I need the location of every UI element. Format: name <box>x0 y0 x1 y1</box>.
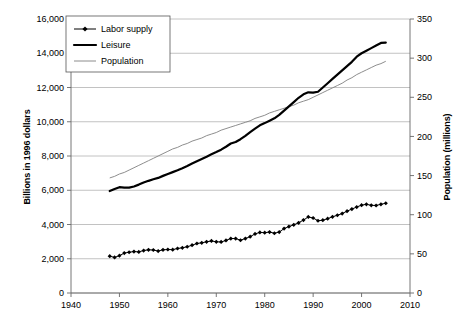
series-labor-supply-marker <box>311 216 315 220</box>
x-axis-tick-label: 1980 <box>255 300 275 310</box>
series-labor-supply-marker <box>175 246 179 250</box>
series-labor-supply-marker <box>161 248 165 252</box>
series-labor-supply-marker <box>209 239 213 243</box>
x-axis-tick-label: 2010 <box>400 300 420 310</box>
series-population-line <box>110 61 386 178</box>
series-labor-supply-marker <box>340 211 344 215</box>
series-labor-supply-marker <box>219 240 223 244</box>
series-labor-supply-marker <box>137 250 141 254</box>
y-axis-right-tick-label: 100 <box>417 210 432 220</box>
series-labor-supply-marker <box>200 241 204 245</box>
series-labor-supply-marker <box>287 224 291 228</box>
chart-figure: Billions in 1996 dollars Population (mil… <box>0 0 460 329</box>
series-labor-supply-marker <box>117 254 121 258</box>
series-labor-supply-marker <box>272 231 276 235</box>
series-labor-supply-marker <box>364 202 368 206</box>
series-labor-supply-marker <box>316 219 320 223</box>
series-labor-supply-marker <box>190 243 194 247</box>
series-labor-supply-marker <box>379 202 383 206</box>
series-labor-supply-marker <box>350 207 354 211</box>
series-labor-supply-marker <box>369 203 373 207</box>
series-labor-supply-marker <box>248 235 252 239</box>
series-population <box>110 61 386 178</box>
y-axis-left-tick-label: 12,000 <box>36 83 64 93</box>
series-labor-supply-marker <box>214 240 218 244</box>
series-labor-supply-marker <box>345 209 349 213</box>
chart-legend: Labor supplyLeisurePopulation <box>66 16 170 72</box>
series-labor-supply-marker <box>330 215 334 219</box>
y-axis-left-tick-label: 2,000 <box>41 254 64 264</box>
y-axis-right-tick-label: 200 <box>417 132 432 142</box>
series-labor-supply-marker <box>234 236 238 240</box>
y-axis-left-tick-label: 0 <box>59 288 64 298</box>
y-axis-left-tick-label: 8,000 <box>41 151 64 161</box>
series-labor-supply-marker <box>384 201 388 205</box>
series-labor-supply-marker <box>224 238 228 242</box>
series-labor-supply-marker <box>180 246 184 250</box>
y-axis-left-tick-label: 4,000 <box>41 220 64 230</box>
series-labor-supply-marker <box>151 248 155 252</box>
x-axis-ticks: 19401950196019701980199020002010 <box>61 293 420 310</box>
series-labor-supply-line <box>110 203 386 257</box>
x-axis-tick-label: 1990 <box>303 300 323 310</box>
series-labor-supply-marker <box>142 248 146 252</box>
y-axis-right-tick-label: 300 <box>417 53 432 63</box>
series-labor-supply-marker <box>374 203 378 207</box>
y-axis-right-tick-label: 0 <box>417 288 422 298</box>
y-axis-left-tick-label: 10,000 <box>36 117 64 127</box>
legend-label: Population <box>101 56 144 66</box>
series-labor-supply-marker <box>171 248 175 252</box>
y-axis-left-tick-label: 6,000 <box>41 185 64 195</box>
series-labor-supply-marker <box>108 254 112 258</box>
legend-label: Leisure <box>101 40 131 50</box>
series-labor-supply-marker <box>229 236 233 240</box>
legend-label: Labor supply <box>101 24 153 34</box>
series-labor-supply-marker <box>146 248 150 252</box>
series-labor-supply-marker <box>205 240 209 244</box>
series-labor-supply-marker <box>326 217 330 221</box>
series-labor-supply <box>108 201 388 259</box>
x-axis-tick-label: 2000 <box>352 300 372 310</box>
series-labor-supply-marker <box>321 218 325 222</box>
x-axis-tick-label: 1970 <box>206 300 226 310</box>
series-labor-supply-marker <box>156 249 160 253</box>
series-labor-supply-marker <box>267 230 271 234</box>
series-labor-supply-marker <box>238 238 242 242</box>
series-labor-supply-marker <box>258 230 262 234</box>
series-labor-supply-marker <box>127 250 131 254</box>
chart-plot-area: 02,0004,0006,0008,00010,00012,00014,0001… <box>0 0 460 329</box>
series-labor-supply-marker <box>122 251 126 255</box>
y-axis-left-tick-label: 14,000 <box>36 48 64 58</box>
series-labor-supply-marker <box>253 232 257 236</box>
series-labor-supply-marker <box>166 247 170 251</box>
series-labor-supply-marker <box>195 241 199 245</box>
series-labor-supply-marker <box>185 245 189 249</box>
x-axis-tick-label: 1940 <box>61 300 81 310</box>
x-axis-tick-label: 1960 <box>158 300 178 310</box>
y-axis-right-tick-label: 250 <box>417 92 432 102</box>
series-labor-supply-marker <box>243 236 247 240</box>
y-axis-right-ticks: 050100150200250300350 <box>410 14 432 298</box>
series-labor-supply-marker <box>359 203 363 207</box>
y-axis-left-tick-label: 16,000 <box>36 14 64 24</box>
y-axis-right-tick-label: 50 <box>417 249 427 259</box>
series-labor-supply-marker <box>292 223 296 227</box>
y-axis-right-tick-label: 350 <box>417 14 432 24</box>
series-labor-supply-marker <box>355 205 359 209</box>
x-axis-tick-label: 1950 <box>109 300 129 310</box>
series-labor-supply-marker <box>335 213 339 217</box>
y-axis-right-tick-label: 150 <box>417 171 432 181</box>
series-labor-supply-marker <box>132 249 136 253</box>
series-labor-supply-marker <box>263 231 267 235</box>
